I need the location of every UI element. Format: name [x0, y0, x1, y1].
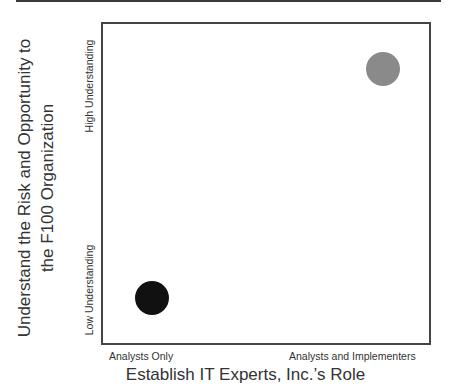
y-tick-low: Low Understanding: [83, 245, 95, 335]
data-point-analysts-and-implementers: [366, 52, 400, 86]
x-tick-high: Analysts and Implementers: [289, 350, 416, 362]
plot-area: [101, 22, 431, 345]
y-tick-high: High Understanding: [83, 40, 95, 133]
x-tick-low: Analysts Only: [109, 350, 173, 362]
y-axis-title: Understand the Risk and Opportunity to t…: [13, 28, 63, 348]
x-axis-title: Establish IT Experts, Inc.’s Role: [0, 365, 451, 385]
top-rule: [16, 0, 441, 2]
y-axis-title-line1: Understand the Risk and Opportunity to: [13, 28, 36, 348]
data-point-analysts-only: [135, 281, 169, 315]
y-axis-title-line2: the F100 Organization: [36, 28, 59, 348]
